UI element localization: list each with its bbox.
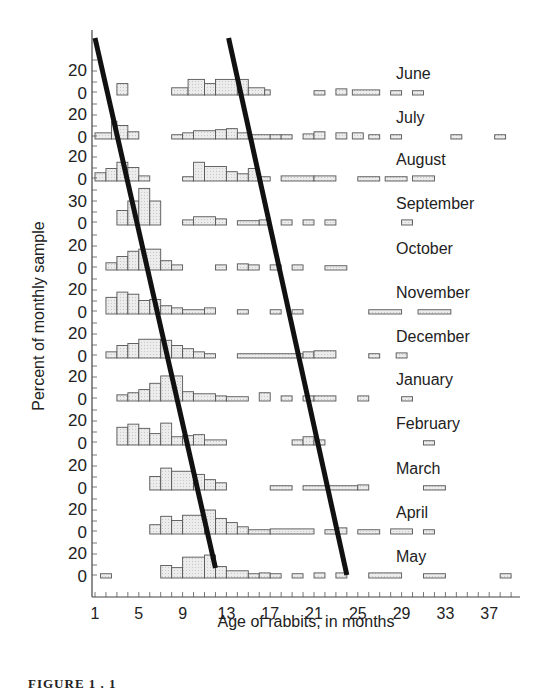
histogram-bin <box>314 351 336 358</box>
histogram-bin <box>205 84 216 95</box>
histogram-bin <box>358 396 369 401</box>
histogram-bin <box>402 220 413 225</box>
histogram-bin <box>183 515 205 534</box>
histogram-bin <box>194 435 205 445</box>
histogram-bin <box>150 201 161 225</box>
y-tick-label: 20 <box>68 411 87 430</box>
histogram-bin <box>183 392 194 401</box>
histogram-bin <box>128 393 139 401</box>
histogram-bin <box>358 485 369 490</box>
histogram-bin <box>183 310 205 314</box>
histogram-bin <box>117 427 128 445</box>
histogram-bin <box>205 480 216 490</box>
histogram-bin <box>194 162 205 181</box>
histogram-bin <box>161 566 172 578</box>
histogram-bin <box>237 354 303 358</box>
month-label-august: August <box>396 151 446 168</box>
cohort-line-2-icon <box>229 38 347 575</box>
y-tick-label: 20 <box>68 500 87 519</box>
histogram-bin <box>413 91 424 95</box>
month-label-september: September <box>396 195 475 212</box>
histogram-bin <box>424 530 435 534</box>
histogram-bin <box>106 263 117 270</box>
histogram-bin <box>314 396 336 401</box>
histogram-bin <box>172 521 183 535</box>
y-tick-label: 20 <box>68 147 87 166</box>
histogram-bin <box>292 574 303 578</box>
histogram-bin <box>237 133 248 139</box>
y-tick-label: 20 <box>68 367 87 386</box>
histogram-bin <box>215 219 226 225</box>
y-axis <box>92 30 97 597</box>
histogram-bin <box>270 486 292 490</box>
histogram-bin <box>358 530 380 534</box>
histogram-bin <box>226 397 248 401</box>
month-histogram <box>100 555 511 578</box>
histogram-bin <box>248 574 259 578</box>
y-tick-label: 0 <box>78 259 87 278</box>
month-label-may: May <box>396 548 426 565</box>
y-tick-label: 0 <box>78 479 87 498</box>
histogram-bin <box>194 352 205 358</box>
histogram-bin <box>396 353 407 358</box>
histogram-bin <box>259 573 270 578</box>
x-tick-label: 29 <box>393 605 411 622</box>
month-histogram <box>117 376 413 401</box>
histogram-bin <box>215 265 226 270</box>
histogram-bin <box>128 132 139 139</box>
histogram-bin <box>226 523 237 534</box>
month-label-july: July <box>396 109 424 126</box>
histogram-bin <box>495 135 506 139</box>
x-tick-label: 37 <box>480 605 498 622</box>
y-tick-label: 0 <box>78 170 87 189</box>
histogram-bin <box>281 135 292 139</box>
month-histogram <box>117 79 424 95</box>
histogram-bin <box>183 220 194 225</box>
histogram-bin <box>424 574 446 578</box>
month-label-june: June <box>396 65 431 82</box>
histogram-bin <box>205 166 227 181</box>
y-tick-label: 20 <box>68 324 87 343</box>
histogram-bin <box>248 88 264 95</box>
y-tick-label: 20 <box>68 236 87 255</box>
histogram-bin <box>314 573 325 578</box>
histogram-bin <box>117 346 128 358</box>
histogram-bin <box>237 174 248 181</box>
histogram-bin <box>369 310 402 314</box>
histogram-bin <box>100 574 111 578</box>
histogram-bin <box>172 308 183 314</box>
histogram-bin <box>106 352 117 358</box>
histogram-bin <box>226 129 237 139</box>
histogram-bin <box>106 169 117 181</box>
histogram-bin <box>237 221 259 225</box>
histogram-bin <box>226 571 248 578</box>
y-tick-label: 0 <box>78 567 87 586</box>
histogram-bin <box>303 437 314 445</box>
histogram-bin <box>237 310 248 314</box>
histogram-bin <box>424 486 446 490</box>
y-tick-label: 0 <box>78 214 87 233</box>
histogram-bin <box>172 471 194 490</box>
histogram-bin <box>292 310 303 314</box>
histogram-bin <box>281 176 314 181</box>
histogram-bin <box>352 90 379 95</box>
histogram-bin <box>385 177 407 181</box>
histogram-bin <box>391 529 413 534</box>
histogram-bin <box>139 188 150 225</box>
month-label-march: March <box>396 460 440 477</box>
histogram-bin <box>451 135 462 139</box>
x-axis-label: Age of rabbits, in months <box>218 613 395 630</box>
histogram-bin <box>172 568 183 578</box>
histogram-bin <box>117 84 128 95</box>
histogram-bin <box>369 354 380 358</box>
month-label-november: November <box>396 284 470 301</box>
histogram-bin <box>183 349 194 358</box>
histogram-bin <box>413 176 435 181</box>
histogram-bin <box>128 294 139 314</box>
histogram-bin <box>194 217 216 225</box>
histogram-bin <box>303 220 314 225</box>
histogram-bin <box>325 530 336 534</box>
histogram-bin <box>215 567 226 578</box>
histogram-bin <box>172 346 183 358</box>
histogram-bin <box>369 135 380 139</box>
